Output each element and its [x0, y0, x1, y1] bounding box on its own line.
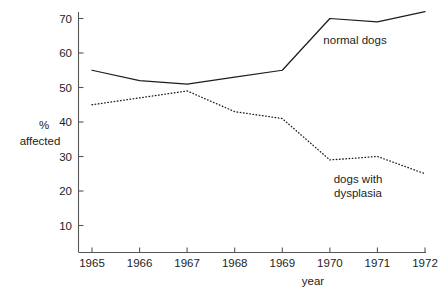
y-tick-label-30: 30: [59, 151, 72, 163]
y-axis-title-line-1: %: [39, 119, 49, 131]
x-tick-label-1971: 1971: [365, 257, 391, 269]
y-tick-label-20: 20: [59, 185, 72, 197]
series-label-dysplasia-line-2: dysplasia: [334, 187, 383, 199]
chart-container: 70 60 50 40 30 20 10 1965 1966 1967 1968…: [0, 0, 440, 304]
y-tick-label-10: 10: [59, 220, 72, 232]
line-chart: 70 60 50 40 30 20 10 1965 1966 1967 1968…: [0, 0, 440, 304]
x-tick-label-1968: 1968: [222, 257, 248, 269]
x-tick-label-1970: 1970: [317, 257, 343, 269]
x-tick-label-1972: 1972: [412, 257, 438, 269]
y-tick-label-60: 60: [59, 47, 72, 59]
x-tick-label-1966: 1966: [127, 257, 153, 269]
y-tick-label-50: 50: [59, 82, 72, 94]
y-tick-label-40: 40: [59, 116, 72, 128]
y-axis-title-line-2: affected: [20, 135, 61, 147]
series-label-dysplasia-line-1: dogs with: [334, 173, 383, 185]
series-line-normal-dogs: [92, 12, 425, 84]
x-axis-title: year: [302, 275, 325, 287]
x-tick-label-1967: 1967: [174, 257, 200, 269]
x-axis-ticks: [92, 248, 425, 253]
x-tick-label-1969: 1969: [270, 257, 296, 269]
x-tick-label-1965: 1965: [79, 257, 105, 269]
y-tick-label-70: 70: [59, 13, 72, 25]
series-label-normal-dogs: normal dogs: [323, 34, 387, 46]
y-axis-ticks: [79, 19, 84, 226]
series-line-dogs-with-dysplasia: [92, 91, 425, 174]
